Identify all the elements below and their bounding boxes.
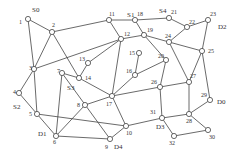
edge-9-10 (110, 126, 126, 139)
node-10 (123, 123, 128, 128)
node-label: 8 (77, 102, 80, 108)
node-label: 28 (186, 118, 192, 124)
node-label: 3 (29, 65, 32, 71)
node-label: 14 (85, 75, 91, 81)
edge-30-32 (174, 130, 208, 136)
node-label: 1 (19, 19, 22, 25)
edge-17-10 (112, 96, 126, 126)
terminal-label-s4: S4 (159, 7, 167, 15)
edge-15-16 (135, 53, 139, 75)
edge-14-17 (79, 78, 112, 96)
network-diagram: 1234567891011121314151617181920212223242… (0, 0, 238, 159)
node-label: 4 (13, 89, 16, 95)
node-20 (163, 57, 168, 62)
node-15 (136, 50, 141, 55)
node-label: 25 (208, 48, 214, 54)
node-label: 13 (79, 56, 85, 62)
node-16 (132, 72, 137, 77)
edge-23-25 (202, 20, 208, 51)
node-14 (76, 75, 81, 80)
node-32 (171, 133, 176, 138)
edge-24-27 (169, 42, 189, 82)
node-label: 32 (169, 140, 175, 146)
node-22 (184, 24, 189, 29)
terminal-label-d4: D4 (114, 143, 123, 151)
node-23 (205, 17, 210, 22)
node-label: 22 (189, 19, 195, 25)
node-29 (207, 97, 212, 102)
edge-3-12 (34, 39, 121, 69)
edge-7-6 (56, 73, 62, 136)
terminal-label-s3: S3 (67, 84, 75, 92)
edge-11-12 (109, 20, 121, 39)
edge-2-11 (52, 20, 109, 32)
edge-16-17 (112, 75, 135, 96)
node-label: 11 (109, 11, 115, 17)
edge-18-21 (135, 18, 169, 20)
node-label: 27 (190, 73, 196, 79)
node-label: 31 (150, 109, 156, 115)
edge-16-20 (135, 60, 166, 75)
node-1 (25, 16, 30, 21)
node-6 (53, 133, 58, 138)
edge-5-10 (37, 114, 126, 126)
terminal-label-d2: D2 (218, 23, 227, 31)
terminal-label-s0: S0 (32, 6, 40, 14)
terminal-label-s2: S2 (13, 103, 21, 111)
node-8 (82, 102, 87, 107)
node-label: 16 (126, 68, 132, 74)
node-label: 17 (106, 101, 112, 107)
node-label: 9 (105, 144, 108, 150)
edge-12-13 (88, 39, 121, 63)
node-31 (159, 115, 164, 120)
node-label: 5 (29, 111, 32, 117)
node-3 (31, 66, 36, 71)
edge-3-5 (34, 69, 37, 114)
node-24 (166, 39, 171, 44)
terminal-label-d1: D1 (38, 130, 47, 138)
node-11 (106, 17, 111, 22)
node-label: 18 (137, 11, 143, 17)
edge-8-6 (56, 105, 85, 136)
edge-1-3 (28, 19, 34, 69)
terminal-label-d3: D3 (156, 123, 165, 131)
node-13 (85, 60, 90, 65)
node-9 (107, 136, 112, 141)
node-27 (186, 79, 191, 84)
node-26 (157, 84, 162, 89)
node-label: 12 (124, 31, 130, 37)
edge-1-2 (28, 19, 52, 32)
edge-4-5 (19, 93, 37, 114)
node-label: 10 (126, 130, 132, 136)
node-label: 29 (201, 92, 207, 98)
node-label: 19 (147, 27, 153, 33)
node-label: 26 (151, 79, 157, 85)
node-2 (49, 29, 54, 34)
node-28 (186, 111, 191, 116)
node-4 (16, 90, 21, 95)
edge-22-24 (169, 27, 187, 42)
node-12 (118, 36, 123, 41)
node-label: 6 (53, 139, 56, 145)
edge-26-31 (160, 87, 162, 118)
edge-12-17 (112, 39, 121, 96)
terminal-label-d0: D0 (217, 98, 226, 106)
node-17 (109, 93, 114, 98)
node-label: 21 (171, 9, 177, 15)
edge-6-9 (56, 136, 110, 139)
edges-layer (19, 18, 210, 139)
node-30 (205, 127, 210, 132)
node-7 (59, 70, 64, 75)
node-label: 24 (165, 33, 171, 39)
edge-17-26 (112, 87, 160, 96)
node-label: 20 (158, 53, 164, 59)
edge-21-22 (169, 18, 187, 27)
node-label: 23 (210, 11, 216, 17)
terminal-label-s1: S1 (127, 11, 135, 19)
edge-24-25 (169, 42, 202, 51)
node-label: 7 (57, 68, 60, 74)
node-label: 15 (129, 50, 135, 56)
node-21 (166, 15, 171, 20)
edge-20-26 (160, 60, 166, 87)
node-label: 30 (209, 134, 215, 140)
